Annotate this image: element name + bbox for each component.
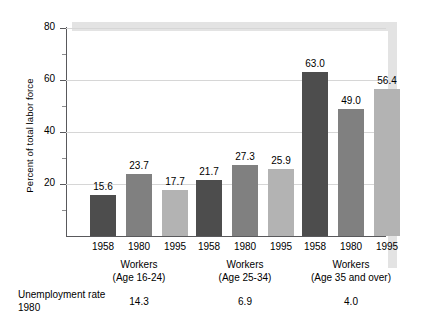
unemployment-rate-value-1: 14.3 <box>109 296 169 307</box>
y-tick-label-80: 80 <box>25 21 55 32</box>
y-tick-label-60: 60 <box>25 73 55 84</box>
bar-1958-group-3 <box>302 72 328 236</box>
unemployment-rate-value-2: 6.9 <box>215 296 275 307</box>
group-label-line1: Workers <box>276 258 426 271</box>
bar-value-label: 15.6 <box>81 181 125 192</box>
bar-value-label: 23.7 <box>117 160 161 171</box>
bar-value-label: 21.7 <box>187 166 231 177</box>
bar-1995-group-2 <box>268 169 294 236</box>
bar-1980-group-3 <box>338 109 364 236</box>
bar-1958-group-2 <box>196 180 222 236</box>
y-tick-label-20: 20 <box>25 177 55 188</box>
group-label-line2: (Age 35 and over) <box>276 271 426 284</box>
bar-chart: Percent of total labor force 20406080 15… <box>0 0 430 328</box>
unemployment-rate-value-3: 4.0 <box>321 296 381 307</box>
bar-value-label: 25.9 <box>259 155 303 166</box>
bar-value-label: 63.0 <box>293 58 337 69</box>
bar-1980-group-2 <box>232 165 258 236</box>
unemployment-label-line1: Unemployment <box>18 289 85 300</box>
bar-value-label: 56.4 <box>365 75 409 86</box>
bar-value-label: 49.0 <box>329 95 373 106</box>
bar-1980-group-1 <box>126 174 152 236</box>
bar-value-label: 17.7 <box>153 176 197 187</box>
bar-1995-group-1 <box>162 190 188 236</box>
x-axis-line <box>66 236 386 237</box>
y-tick-label-40: 40 <box>25 125 55 136</box>
bar-1958-group-1 <box>90 195 116 236</box>
x-tick-label-1995: 1995 <box>365 241 409 252</box>
bars-layer <box>66 28 386 236</box>
bar-1995-group-3 <box>374 89 400 236</box>
group-label-3: Workers(Age 35 and over) <box>276 258 426 284</box>
